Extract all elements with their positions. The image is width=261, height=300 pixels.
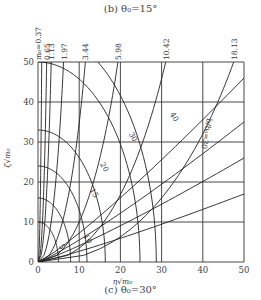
chart-caption: (c) θ₀=30° <box>0 284 261 295</box>
arc-label-40: 40 <box>168 111 181 124</box>
m-label-18.13: 18.13 <box>230 38 239 60</box>
x-tick-label: 20 <box>115 265 126 275</box>
m-label-10.42: 10.42 <box>162 38 171 60</box>
y-tick-label: 50 <box>23 57 34 67</box>
m-label-1.13: 1.13 <box>47 43 56 60</box>
chart-plot: 0102030405001020304050η√m₀ζ√m₀5101520304… <box>0 0 261 300</box>
y-axis-label: ζ√m₀ <box>3 149 12 168</box>
m-curve <box>38 62 234 262</box>
y-tick-label: 10 <box>23 217 34 227</box>
y-tick-label: 0 <box>29 257 34 267</box>
x-tick-label: 0 <box>35 265 40 275</box>
x-tick-label: 40 <box>197 265 208 275</box>
x-tick-label: 30 <box>156 265 167 275</box>
curves <box>38 30 244 262</box>
y-tick-label: 40 <box>23 97 34 107</box>
ray-label: b/b₀=30 <box>200 118 214 150</box>
x-tick-label: 10 <box>74 265 85 275</box>
ray-curve <box>38 78 244 262</box>
y-tick-label: 20 <box>23 177 34 187</box>
y-tick-label: 30 <box>23 137 34 147</box>
m-label-0.37: m₀=0.37 <box>34 27 43 60</box>
arc-label-20: 20 <box>98 161 111 174</box>
m-label-5.98: 5.98 <box>114 43 123 60</box>
m-label-3.44: 3.44 <box>81 43 90 60</box>
arc-label-30: 30 <box>127 131 140 144</box>
m-label-1.97: 1.97 <box>60 43 69 60</box>
ray-curve <box>38 194 244 262</box>
m-curve <box>38 62 42 262</box>
arc-label-15: 15 <box>88 187 101 200</box>
x-tick-label: 50 <box>239 265 250 275</box>
